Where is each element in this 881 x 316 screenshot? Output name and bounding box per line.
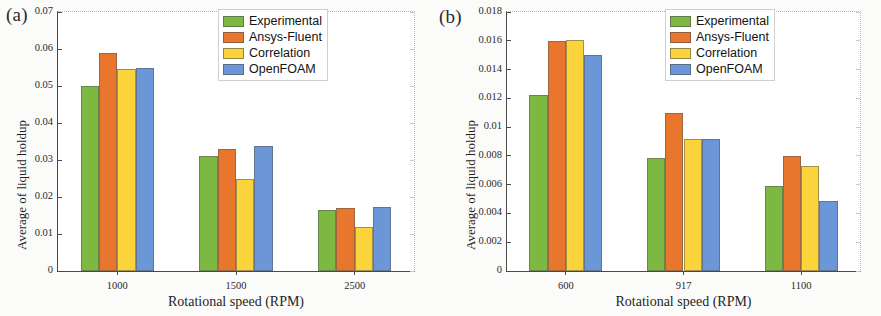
y-axis-title-b: Average of liquid holdup	[463, 120, 479, 250]
legend-swatch-icon	[670, 16, 691, 27]
legend-swatch-icon	[223, 32, 244, 43]
x-tick-mark	[117, 271, 118, 275]
legend-swatch-icon	[223, 48, 244, 59]
y-tick-label: 0.05	[35, 79, 53, 90]
bar	[355, 227, 373, 271]
legend-label: Experimental	[696, 15, 769, 28]
x-tick-label: 917	[676, 280, 692, 291]
x-axis-title-a: Rotational speed (RPM)	[57, 294, 415, 310]
y-tick-label: 0.002	[478, 235, 502, 246]
y-tick-label: 0	[497, 264, 502, 275]
legend-swatch-icon	[670, 64, 691, 75]
x-tick-mark	[683, 271, 684, 275]
bar	[665, 113, 683, 271]
panel-label-a: (a)	[6, 4, 28, 26]
bar	[584, 55, 602, 271]
legend-a: ExperimentalAnsys-FluentCorrelationOpenF…	[218, 9, 328, 81]
figure-two-panel-bar-chart: (a) Average of liquid holdup 00.010.020.…	[0, 0, 881, 316]
y-tick-label: 0.01	[484, 120, 502, 131]
bar	[801, 166, 819, 271]
legend-label: Ansys-Fluent	[696, 31, 769, 44]
legend-label: Ansys-Fluent	[249, 31, 322, 44]
y-tick-label: 0.016	[478, 34, 502, 45]
y-tick-label: 0.008	[478, 149, 502, 160]
bar	[199, 156, 217, 271]
y-tick-label: 0.06	[35, 42, 53, 53]
x-tick-mark	[565, 271, 566, 275]
y-tick-label: 0.012	[478, 91, 502, 102]
legend-swatch-icon	[223, 64, 244, 75]
x-tick-mark	[236, 271, 237, 275]
y-tick-label: 0.02	[35, 190, 53, 201]
bar	[765, 186, 783, 271]
bar	[99, 53, 117, 271]
chart-panel-b: (b) Average of liquid holdup 00.0020.004…	[437, 0, 881, 316]
legend-item[interactable]: OpenFOAM	[670, 61, 769, 77]
bar	[136, 68, 154, 272]
y-tick-label: 0.04	[35, 116, 53, 127]
bar	[529, 95, 547, 271]
chart-panel-a: (a) Average of liquid holdup 00.010.020.…	[0, 0, 437, 316]
legend-label: Correlation	[696, 47, 757, 60]
legend-label: OpenFOAM	[696, 63, 763, 76]
legend-item[interactable]: Correlation	[670, 45, 769, 61]
x-tick-label: 1000	[107, 280, 128, 291]
bar	[254, 146, 272, 271]
legend-item[interactable]: Correlation	[223, 45, 322, 61]
y-tick-label: 0.03	[35, 153, 53, 164]
legend-label: Experimental	[249, 15, 322, 28]
y-tick-label: 0.014	[478, 63, 502, 74]
bar	[373, 207, 391, 271]
legend-swatch-icon	[223, 16, 244, 27]
x-tick-label: 1500	[226, 280, 247, 291]
legend-label: Correlation	[249, 47, 310, 60]
bar	[81, 86, 99, 271]
x-tick-label: 1100	[791, 280, 812, 291]
bar	[819, 201, 837, 271]
legend-item[interactable]: Experimental	[670, 13, 769, 29]
bar	[702, 139, 720, 271]
bar	[566, 40, 584, 271]
y-tick-label: 0.018	[478, 5, 502, 16]
y-tick-label: 0.004	[478, 206, 502, 217]
x-tick-label: 600	[558, 280, 574, 291]
y-tick-label: 0.006	[478, 178, 502, 189]
y-tick-label: 0	[48, 264, 53, 275]
x-axis-title-b: Rotational speed (RPM)	[506, 294, 861, 310]
bar	[684, 139, 702, 271]
bar	[318, 210, 336, 271]
panel-label-b: (b)	[439, 6, 462, 28]
x-tick-label: 2500	[344, 280, 365, 291]
bar	[218, 149, 236, 271]
legend-item[interactable]: OpenFOAM	[223, 61, 322, 77]
bar	[236, 179, 254, 272]
legend-swatch-icon	[670, 32, 691, 43]
legend-item[interactable]: Experimental	[223, 13, 322, 29]
bar	[783, 156, 801, 271]
x-tick-mark	[801, 271, 802, 275]
bar	[336, 208, 354, 271]
legend-b: ExperimentalAnsys-FluentCorrelationOpenF…	[665, 9, 775, 81]
y-axis-title-a: Average of liquid holdup	[14, 120, 30, 250]
legend-item[interactable]: Ansys-Fluent	[670, 29, 769, 45]
y-tick-label: 0.07	[35, 5, 53, 16]
legend-label: OpenFOAM	[249, 63, 316, 76]
legend-swatch-icon	[670, 48, 691, 59]
x-tick-mark	[354, 271, 355, 275]
bar	[548, 41, 566, 271]
bar	[647, 158, 665, 271]
y-tick-label: 0.01	[35, 227, 53, 238]
bar	[117, 69, 135, 271]
legend-item[interactable]: Ansys-Fluent	[223, 29, 322, 45]
